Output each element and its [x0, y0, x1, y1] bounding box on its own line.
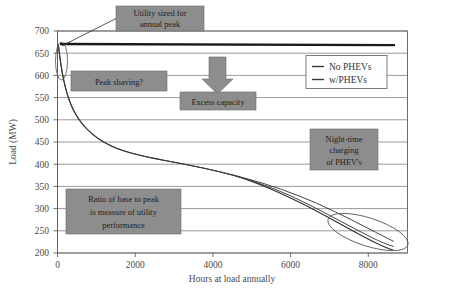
y-tick-label: 200 [35, 248, 50, 258]
callout-ratio-base-to-peak: Ratio of base to peak is measure of util… [66, 189, 181, 234]
y-tick-label: 450 [35, 137, 50, 147]
callout-line: Excess capacity [191, 98, 245, 107]
y-tick-label: 300 [35, 204, 50, 214]
callout-utility-sized-for-annual-peak: Utility sized for annual peak [116, 6, 204, 31]
x-tick-label: 6000 [281, 260, 300, 270]
y-tick-label: 650 [35, 49, 50, 59]
x-tick-label: 2000 [126, 260, 145, 270]
load-duration-curve-chart: 700 650 600 550 500 450 400 350 300 250 … [0, 0, 452, 293]
y-tick-label: 250 [35, 226, 50, 236]
legend-label-w-phevs: w/PHEVs [329, 75, 367, 85]
callout-line: annual peak [140, 20, 181, 29]
callout-line: Utility sized for [133, 9, 186, 18]
y-tick-label: 350 [35, 182, 50, 192]
chart-legend[interactable]: No PHEVs w/PHEVs [306, 56, 387, 89]
x-tick-label: 4000 [203, 260, 222, 270]
callout-line: charging [329, 146, 359, 155]
chart-figure: 700 650 600 550 500 450 400 350 300 250 … [0, 0, 452, 293]
y-tick-label: 550 [35, 93, 50, 103]
y-axis-title: Load (MW) [8, 119, 19, 165]
y-tick-label: 700 [35, 26, 50, 36]
callout-line: performance [102, 221, 145, 230]
callout-line: of PHEV's [326, 158, 362, 167]
callout-line: Peak shaving? [95, 78, 143, 87]
x-tick-label: 0 [55, 260, 60, 270]
annual-peak-reference-line [60, 44, 395, 45]
callout-line: is measure of utility [90, 208, 158, 217]
y-tick-label: 500 [35, 115, 50, 125]
callout-excess-capacity: Excess capacity [180, 92, 256, 110]
callout-line: Ratio of base to peak [88, 195, 160, 204]
callout-peak-shaving: Peak shaving? [71, 71, 167, 91]
y-tick-label: 400 [35, 160, 50, 170]
y-tick-label: 600 [35, 71, 50, 81]
callout-night-time-charging: Night-time charging of PHEV's [310, 129, 378, 170]
callout-line: Night-time [326, 135, 363, 144]
legend-label-no-phevs: No PHEVs [329, 62, 372, 72]
x-tick-label: 8000 [359, 260, 378, 270]
x-axis-title: Hours at load annually [189, 274, 276, 284]
